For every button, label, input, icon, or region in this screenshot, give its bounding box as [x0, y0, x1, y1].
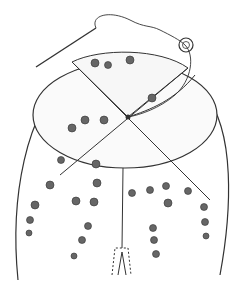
pleat-inner: [118, 252, 126, 275]
thread-ring-inner: [183, 42, 190, 49]
center-seam: [122, 168, 123, 248]
thread-ring-icon: [179, 38, 193, 52]
illustration-canvas: [0, 0, 245, 298]
sewing-illustration: [0, 0, 245, 298]
